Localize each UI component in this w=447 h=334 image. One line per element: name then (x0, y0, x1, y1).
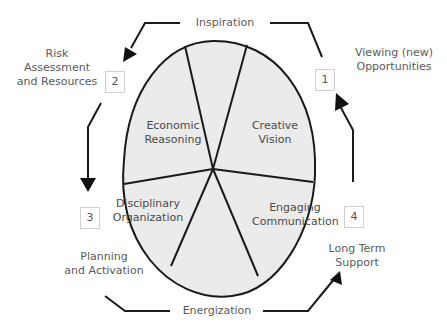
segment-engaging-communication: Engaging Communication (252, 201, 338, 229)
step-3-badge: 3 (80, 207, 100, 229)
segment-disciplinary-organization: Disciplinary Organization (106, 197, 190, 225)
segment-creative-vision: Creative Vision (245, 119, 305, 147)
step-4-badge: 4 (344, 206, 364, 228)
step-2-badge: 2 (105, 71, 125, 93)
step-1-label: Viewing (new) Opportunities (346, 46, 442, 74)
arrowhead-step2 (123, 47, 137, 62)
step-4-label: Long Term Support (322, 242, 392, 270)
arrow-left-down (88, 103, 101, 180)
arrow-energization-left (105, 296, 170, 311)
transition-inspiration: Inspiration (188, 16, 262, 30)
arrow-inspiration-left (131, 23, 180, 48)
step-1-badge: 1 (315, 69, 335, 91)
arrow-right-up (340, 106, 353, 182)
arrowhead-step3 (80, 178, 96, 192)
arrow-energization-right (263, 278, 335, 311)
transition-energization: Energization (174, 304, 260, 318)
segment-economic-reasoning: Economic Reasoning (135, 119, 211, 147)
arrow-inspiration-right (270, 23, 322, 57)
step-3-label: Planning and Activation (60, 250, 148, 278)
step-2-label: Risk Assessment and Resources (16, 47, 98, 89)
